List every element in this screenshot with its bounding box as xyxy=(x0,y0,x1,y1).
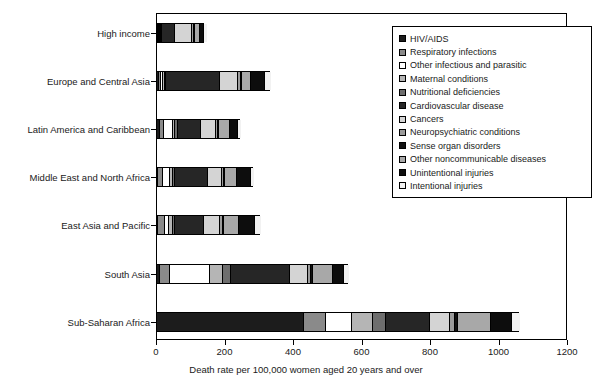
bar-segment xyxy=(237,168,251,186)
category-label: South Asia xyxy=(105,269,150,280)
y-axis-tick xyxy=(151,322,156,323)
legend-label: Cardiovascular disease xyxy=(410,101,504,111)
legend-swatch-icon xyxy=(399,156,406,163)
bar-segment xyxy=(175,168,208,186)
legend-item[interactable]: Cancers xyxy=(399,112,586,125)
legend-swatch-icon xyxy=(399,62,406,69)
bar-segment xyxy=(164,120,174,138)
category-label: Latin America and Caribbean xyxy=(27,124,150,135)
legend-swatch-icon xyxy=(399,49,406,56)
legend-item[interactable]: Other noncommunicable diseases xyxy=(399,153,586,166)
bar-segment xyxy=(224,216,239,234)
legend-label: Other noncommunicable diseases xyxy=(410,154,546,164)
x-axis-tick xyxy=(499,340,500,345)
legend-label: Maternal conditions xyxy=(410,74,488,84)
legend-swatch-icon xyxy=(399,102,406,109)
bar-segment xyxy=(458,313,491,331)
bar-segment xyxy=(290,265,308,283)
legend-label: Respiratory infections xyxy=(410,47,497,57)
bar xyxy=(156,119,240,139)
legend-label: HIV/AIDS xyxy=(410,34,449,44)
bar-segment xyxy=(220,72,238,90)
category-label: Europe and Central Asia xyxy=(47,76,150,87)
bar-segment xyxy=(225,168,237,186)
legend-swatch-icon xyxy=(399,182,406,189)
legend-label: Nutritional deficiencies xyxy=(410,87,500,97)
bar-segment xyxy=(230,120,239,138)
legend-item[interactable]: Other infectious and parasitic xyxy=(399,59,586,72)
bar-segment xyxy=(251,72,265,90)
bar-segment xyxy=(373,313,387,331)
legend-item[interactable]: Maternal conditions xyxy=(399,72,586,85)
legend-label: Neuropsychiatric conditions xyxy=(410,127,520,137)
category-label: Middle East and North Africa xyxy=(30,172,150,183)
bar-segment xyxy=(223,265,231,283)
legend-item[interactable]: Nutritional deficiencies xyxy=(399,86,586,99)
legend-item[interactable]: Unintentional injuries xyxy=(399,166,586,179)
bar xyxy=(156,215,260,235)
bar-segment xyxy=(163,168,170,186)
bar-segment xyxy=(238,120,241,138)
bar-segment xyxy=(430,313,451,331)
bar xyxy=(156,23,204,43)
legend-item[interactable]: Neuropsychiatric conditions xyxy=(399,126,586,139)
legend-swatch-icon xyxy=(399,75,406,82)
bar-segment xyxy=(204,24,206,42)
y-axis-tick xyxy=(151,177,156,178)
stacked-bar-chart: High incomeEurope and Central AsiaLatin … xyxy=(0,0,612,387)
category-label: East Asia and Pacific xyxy=(61,220,150,231)
bar-segment xyxy=(208,168,222,186)
legend-item[interactable]: Respiratory infections xyxy=(399,45,586,58)
chart-legend: HIV/AIDSRespiratory infectionsOther infe… xyxy=(392,26,592,198)
bar-segment xyxy=(242,72,251,90)
bar-segment xyxy=(386,313,429,331)
x-axis-tick-label: 0 xyxy=(131,346,181,357)
legend-item[interactable]: Intentional injuries xyxy=(399,179,586,192)
bar-segment xyxy=(157,313,304,331)
bar-segment xyxy=(491,313,512,331)
bar-segment xyxy=(162,24,174,42)
bar-segment xyxy=(265,72,271,90)
x-axis-tick-label: 1000 xyxy=(474,346,524,357)
category-label: Sub-Saharan Africa xyxy=(68,317,150,328)
legend-item[interactable]: Sense organ disorders xyxy=(399,139,586,152)
bar-segment xyxy=(175,24,192,42)
x-axis-tick xyxy=(225,340,226,345)
x-axis-tick-label: 600 xyxy=(337,346,387,357)
y-axis-tick xyxy=(151,81,156,82)
bar xyxy=(156,312,519,332)
y-axis-tick xyxy=(151,33,156,34)
legend-label: Other infectious and parasitic xyxy=(410,60,527,70)
bar xyxy=(156,264,348,284)
bar-segment xyxy=(175,216,203,234)
legend-swatch-icon xyxy=(399,116,406,123)
bar-segment xyxy=(178,120,201,138)
legend-swatch-icon xyxy=(399,169,406,176)
x-axis-tick-label: 400 xyxy=(268,346,318,357)
x-axis-tick-label: 800 xyxy=(405,346,455,357)
legend-item[interactable]: HIV/AIDS xyxy=(399,32,586,45)
legend-label: Intentional injuries xyxy=(410,181,483,191)
bar-segment xyxy=(231,265,290,283)
bar-segment xyxy=(170,265,210,283)
y-axis-tick xyxy=(151,225,156,226)
x-axis-tick xyxy=(362,340,363,345)
legend-label: Sense organ disorders xyxy=(410,141,501,151)
bar-segment xyxy=(255,216,261,234)
bar-segment xyxy=(326,313,353,331)
legend-label: Unintentional injuries xyxy=(410,168,494,178)
category-label: High income xyxy=(97,28,150,39)
bar-segment xyxy=(512,313,520,331)
bar-segment xyxy=(219,120,229,138)
y-axis-category-labels: High incomeEurope and Central AsiaLatin … xyxy=(0,0,150,340)
bar-segment xyxy=(344,265,349,283)
bar xyxy=(156,71,270,91)
y-axis-tick xyxy=(151,274,156,275)
x-axis-title: Death rate per 100,000 women aged 20 yea… xyxy=(0,364,612,375)
x-axis-tick xyxy=(567,340,568,345)
legend-item[interactable]: Cardiovascular disease xyxy=(399,99,586,112)
bar xyxy=(156,167,253,187)
bar-segment xyxy=(304,313,325,331)
x-axis-tick xyxy=(430,340,431,345)
legend-swatch-icon xyxy=(399,142,406,149)
